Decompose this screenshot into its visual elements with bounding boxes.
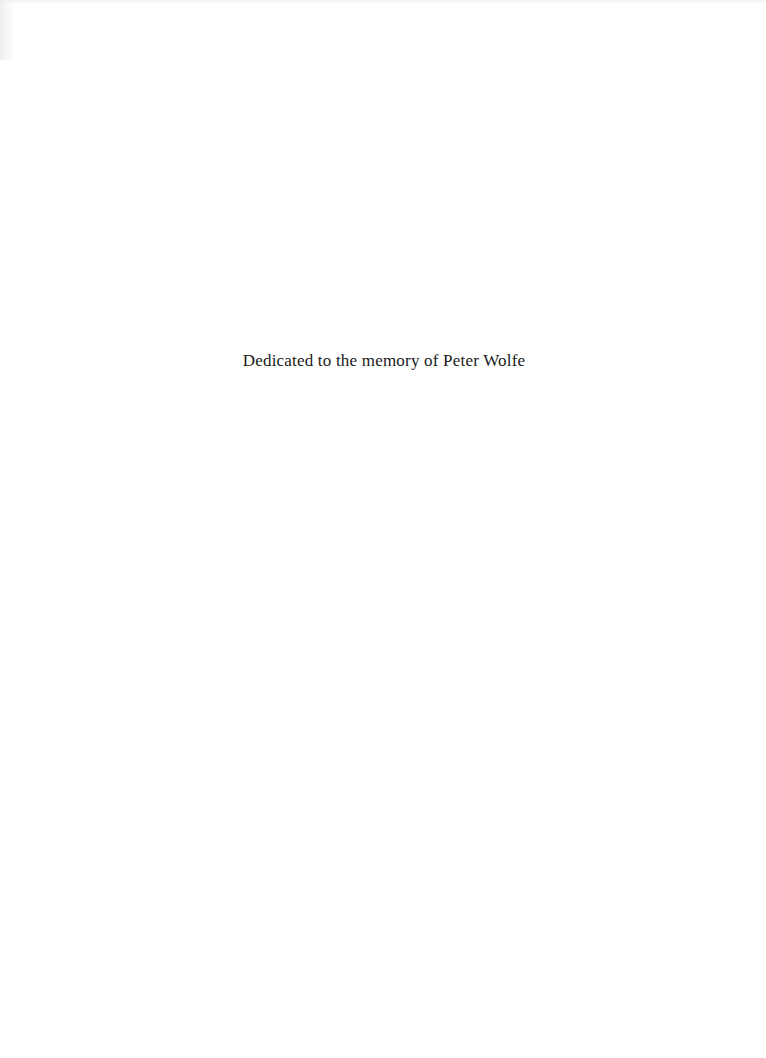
dedication-text: Dedicated to the memory of Peter Wolfe <box>243 350 526 372</box>
dedication-line: Dedicated to the memory of Peter Wolfe <box>0 350 766 372</box>
scan-edge <box>0 0 766 4</box>
scan-corner-shadow <box>0 0 14 60</box>
book-page: Dedicated to the memory of Peter Wolfe <box>0 0 766 1058</box>
